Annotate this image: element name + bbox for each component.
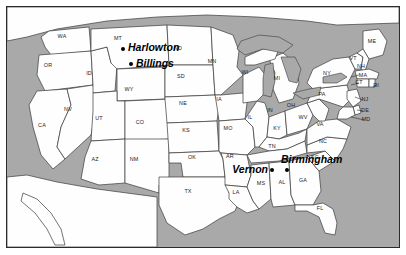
city-dot-birmingham[interactable] — [285, 168, 289, 172]
state-ok — [169, 151, 225, 177]
state-ks — [167, 121, 219, 153]
city-dot-vernon[interactable] — [270, 168, 274, 172]
city-label-billings: Billings — [136, 57, 174, 69]
city-label-birmingham: Birmingham — [281, 153, 342, 165]
city-label-vernon: Vernon — [232, 163, 268, 175]
state-or — [37, 51, 93, 91]
state-wa — [41, 27, 91, 55]
state-ma — [355, 69, 379, 79]
state-mn — [211, 27, 243, 95]
state-sd — [165, 65, 215, 97]
map-frame: WAORIDMTNDSDMNWIMIWYNVUTCONEIAILINOHCAAZ… — [6, 6, 400, 248]
state-co — [125, 99, 171, 141]
state-fl — [295, 203, 337, 235]
city-label-harlowton: Harlowton — [128, 41, 179, 53]
us-map-screenshot: WAORIDMTNDSDMNWIMIWYNVUTCONEIAILINOHCAAZ… — [0, 0, 406, 255]
city-dot-billings[interactable] — [129, 62, 133, 66]
state-ny — [307, 57, 355, 89]
city-dot-harlowton[interactable] — [121, 47, 125, 51]
state-in — [267, 111, 287, 139]
leader-md — [351, 117, 364, 120]
state-ne — [165, 95, 219, 123]
lake-michigan — [263, 63, 275, 97]
state-ia — [215, 93, 247, 121]
us-map-vector — [7, 7, 399, 247]
state-mo — [219, 119, 255, 155]
state-nj — [347, 89, 361, 107]
state-wy — [117, 67, 165, 101]
state-az — [81, 139, 125, 185]
state-ri — [369, 79, 375, 87]
